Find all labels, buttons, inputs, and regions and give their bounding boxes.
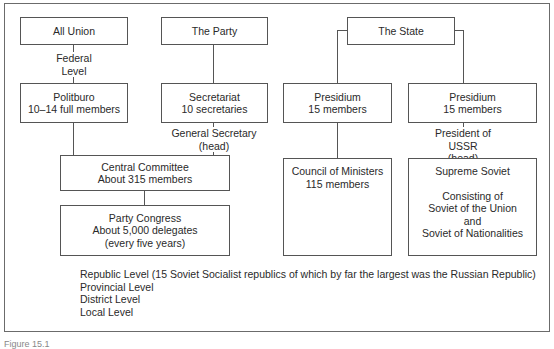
presidium-right-box: Presidium 15 members	[408, 83, 537, 123]
general-secretary-line2: (head)	[170, 140, 258, 153]
level-local: Local Level	[80, 306, 536, 319]
presidium-left-members: 15 members	[308, 103, 366, 116]
central-committee-title: Central Committee	[101, 161, 189, 174]
supreme-soviet-detail: Consisting of	[442, 190, 503, 203]
all-union-box: All Union	[20, 17, 128, 45]
connector-party-secretariat	[213, 44, 214, 83]
council-title: Council of Ministers	[292, 165, 384, 178]
general-secretary-label: General Secretary (head)	[170, 127, 258, 152]
supreme-soviet-detail: and	[464, 215, 482, 228]
supreme-soviet-detail: Soviet of the Union	[428, 202, 517, 215]
politburo-title: Politburo	[53, 91, 94, 104]
presidium-left-title: Presidium	[314, 91, 361, 104]
party-box: The Party	[161, 17, 268, 45]
connector-state-right-v	[463, 30, 464, 83]
federal-level-label: Federal Level	[48, 52, 100, 77]
connector-presidium-council	[337, 122, 338, 158]
all-union-title: All Union	[53, 25, 95, 38]
council-members: 115 members	[306, 178, 369, 191]
presidium-left-box: Presidium 15 members	[283, 83, 392, 123]
secretariat-title: Secretariat	[189, 91, 240, 104]
secretariat-box: Secretariat 10 secretaries	[161, 83, 268, 123]
supreme-soviet-box: Supreme Soviet Consisting of Soviet of t…	[408, 158, 537, 256]
connector-state-left-v	[337, 30, 338, 83]
federal-label-line1: Federal	[48, 52, 100, 65]
council-of-ministers-box: Council of Ministers 115 members	[283, 158, 392, 256]
central-committee-members: About 315 members	[98, 173, 193, 186]
state-box: The State	[347, 17, 455, 45]
federal-label-line2: Level	[48, 65, 100, 78]
presidium-right-title: Presidium	[449, 91, 496, 104]
supreme-soviet-title: Supreme Soviet	[435, 165, 510, 178]
party-congress-frequency: (every five years)	[105, 237, 186, 250]
secretariat-members: 10 secretaries	[182, 103, 248, 116]
politburo-members: 10–14 full members	[28, 103, 120, 116]
level-republic: Republic Level (15 Soviet Socialist repu…	[80, 268, 536, 281]
president-ussr-line1: President of USSR	[420, 127, 506, 152]
central-committee-box: Central Committee About 315 members	[60, 155, 230, 191]
party-congress-title: Party Congress	[109, 212, 181, 225]
state-title: The State	[378, 25, 424, 38]
politburo-box: Politburo 10–14 full members	[20, 83, 128, 123]
presidium-right-members: 15 members	[443, 103, 501, 116]
party-congress-delegates: About 5,000 delegates	[92, 224, 197, 237]
general-secretary-line1: General Secretary	[170, 127, 258, 140]
level-district: District Level	[80, 293, 536, 306]
figure-caption: Figure 15.1	[4, 339, 50, 349]
connector-state-left-h	[337, 30, 347, 31]
lower-levels-list: Republic Level (15 Soviet Socialist repu…	[80, 268, 536, 318]
connector-cc-congress	[144, 190, 145, 205]
supreme-soviet-detail: Soviet of Nationalities	[422, 227, 523, 240]
party-congress-box: Party Congress About 5,000 delegates (ev…	[60, 205, 230, 256]
party-title: The Party	[192, 25, 238, 38]
connector-politburo-cc	[73, 122, 74, 155]
level-provincial: Provincial Level	[80, 281, 536, 294]
